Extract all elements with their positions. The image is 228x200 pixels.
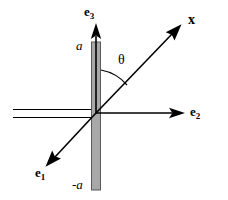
x-vector-label: x xyxy=(188,13,195,27)
e1-label: e1 xyxy=(35,166,45,182)
x-vector-line xyxy=(96,34,172,113)
e1-label-subscript: 1 xyxy=(41,172,46,182)
theta-label: θ xyxy=(118,53,125,67)
e1-axis-line xyxy=(55,113,96,157)
e3-label-subscript: 3 xyxy=(90,11,95,21)
theta-arc-path xyxy=(101,70,127,85)
e2-label: e2 xyxy=(190,105,200,121)
incident-ray-pair xyxy=(13,110,96,118)
e2-axis xyxy=(96,108,185,118)
plate-bottom-label: -a xyxy=(72,178,83,191)
e2-label-subscript: 2 xyxy=(196,111,201,121)
theta-angle-arc xyxy=(101,70,127,85)
e1-axis xyxy=(46,113,97,167)
x-direction-vector xyxy=(96,24,182,113)
e3-label: e3 xyxy=(84,5,94,21)
plate-top-label: a xyxy=(76,39,83,52)
vector-plate-diagram: e3 e2 e1 x θ a -a xyxy=(0,0,228,200)
